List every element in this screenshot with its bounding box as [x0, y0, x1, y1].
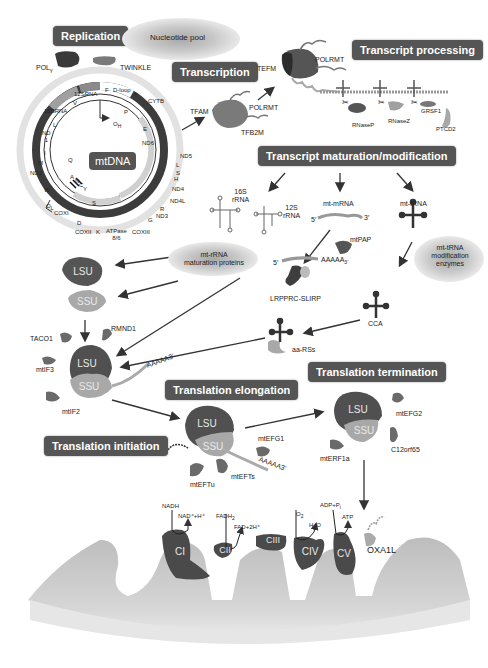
header-translation-termination: Translation termination [308, 362, 446, 382]
gene-d: D [77, 220, 81, 227]
mtif3-shape [42, 356, 56, 364]
mt-mrna-strand [318, 214, 362, 218]
elongation-lsu-label: LSU [195, 418, 219, 429]
h2o-label: H2O [309, 522, 321, 531]
mt-mrna-label: mt-mRNA [323, 200, 354, 208]
gene-cytb: CYTB [148, 98, 164, 105]
adp-pi-label: ADP+Pi [320, 502, 341, 511]
cca-label: CCA [368, 320, 383, 328]
termination-ssu-label: SSU [352, 425, 376, 436]
initiation-ssu-label: SSU [77, 381, 101, 392]
nucleotide-pool-label: Nucleotide pool [150, 34, 205, 42]
complex-iii-label: CIII [262, 535, 284, 545]
gene-m: M [38, 160, 43, 167]
aars-shape [268, 340, 286, 354]
gene-nd4: ND4 [172, 186, 184, 193]
ptcd2-shape [442, 108, 451, 128]
rrna-16s-label: 16SrRNA [232, 188, 249, 204]
gene-cox3: COXIII [132, 229, 150, 236]
gene-ol: OL [46, 203, 53, 212]
grsf1-label: GRSF1 [421, 108, 441, 115]
mtpap-label: mtPAP [350, 236, 371, 244]
gene-l1: L [53, 122, 56, 129]
mtefts-shape [216, 459, 228, 473]
polrmt-label: POLRMT [249, 104, 278, 112]
pol-gamma-shape [55, 51, 79, 67]
gene-a: A [70, 174, 74, 181]
gene-g: G [148, 217, 153, 224]
polya-tail: AAAAA3′ [321, 256, 348, 266]
gene-y: Y [83, 186, 87, 193]
gene-l2: L [176, 162, 179, 169]
initiation-mrna [112, 364, 148, 386]
mtefg1-shape [256, 446, 270, 456]
rnase-p-label: RNaseP [352, 122, 374, 129]
gene-f: F [105, 87, 109, 94]
header-translation-initiation: Translation initiation [44, 436, 168, 456]
mtif2-shape [46, 392, 60, 402]
ptcd2-label: PTCD2 [436, 126, 456, 133]
aars-trna-structure [270, 319, 292, 342]
complex-ii-label: CII [215, 545, 235, 555]
gene-h: H [174, 176, 178, 183]
gene-cox2: COXII [75, 229, 91, 236]
grsf1-shape [420, 101, 436, 107]
taco1-label: TACO1 [30, 335, 53, 343]
gene-i: I [44, 150, 46, 157]
gene-nd2: ND2 [30, 170, 42, 177]
gene-r: R [160, 206, 164, 213]
gene-dloop: D-loop [113, 87, 131, 94]
initiation-lsu-label: LSU [75, 358, 99, 369]
gene-w: W [44, 187, 50, 194]
gene-oh: OH [113, 121, 121, 130]
lrpprc-slirp-label: LRPPRC-SLIRP [270, 295, 321, 303]
twinkle-label: TWINKLE [120, 64, 151, 72]
rnase-z-shape [388, 101, 404, 110]
mterf1a-label: mtERF1a [320, 455, 350, 463]
gene-q: Q [68, 157, 73, 164]
mtif3-label: mtIF3 [36, 366, 54, 374]
fad-label: FAD+2H⁺ [234, 524, 260, 531]
gene-t: T [134, 92, 138, 99]
header-transcription: Transcription [172, 62, 258, 82]
tefm-label: TEFM [257, 65, 276, 73]
mtefg2-label: mtEFG2 [396, 410, 422, 418]
complex-i-label: CI [170, 546, 190, 557]
complex-v-label: CV [334, 548, 354, 559]
trna-modification-label: mt-tRNA modification enzymes [420, 244, 480, 268]
rmnd1-label: RMND1 [111, 325, 136, 333]
processing-trnas [336, 80, 421, 97]
mtdna-center-badge: mtDNA [89, 152, 136, 170]
mrna-3prime: 3′ [364, 214, 369, 222]
cca-trna-structure [364, 292, 388, 318]
twinkle-shape [93, 56, 116, 65]
mterf1a-shape [330, 440, 344, 450]
scissors-icon-3: ✂ [411, 98, 418, 107]
header-translation-elongation: Translation elongation [165, 380, 298, 400]
mtefg2-shape [392, 393, 404, 403]
mteftu-shape [190, 463, 204, 476]
gene-p: P [124, 109, 128, 116]
gene-nd3: ND3 [156, 213, 168, 220]
rnase-z-label: RNaseZ [388, 118, 410, 125]
nadh-label: NADH [162, 503, 179, 510]
elongation-ssu-label: SSU [201, 441, 225, 452]
rrna-12s-label: 12SrRNA [283, 204, 300, 220]
complex-iv-label: CIV [298, 546, 322, 557]
rrna-maturation-label: mt-rRNA maturation proteins [174, 251, 254, 267]
transcription-complex-1 [212, 100, 248, 128]
scissors-icon-1: ✂ [342, 98, 349, 107]
mt-trna-label: mt-tRNA [400, 200, 427, 208]
nad-label: NAD⁺+H⁺ [178, 513, 205, 520]
taco1-shape [60, 332, 72, 342]
gene-s1: S [92, 200, 96, 207]
gene-16srna: 16SRNA [44, 108, 67, 115]
rrna-12s-structure [254, 206, 282, 234]
c12orf65-shape [390, 427, 398, 442]
gene-e: E [143, 126, 147, 133]
gene-s2: S [176, 170, 180, 177]
aars-label: aa-RSs [292, 346, 315, 354]
o2-label: O2 [296, 511, 303, 520]
gene-nd5: ND5 [180, 153, 192, 160]
header-transcript-maturation: Transcript maturation/modification [258, 146, 456, 166]
